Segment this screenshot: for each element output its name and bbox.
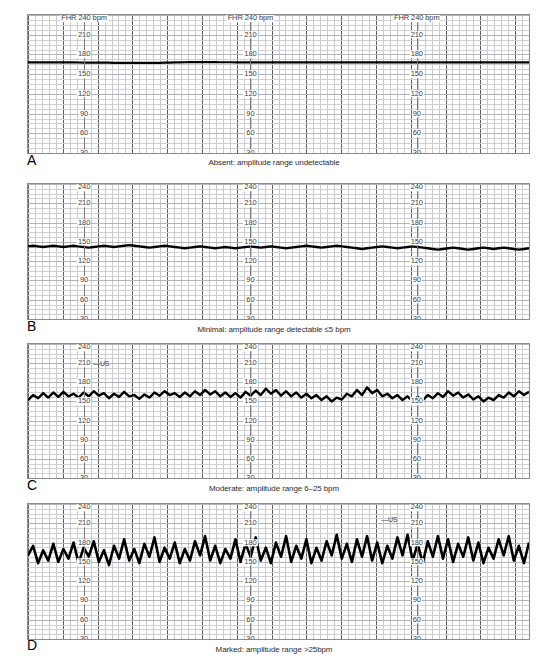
bpm-tick-label: 180 — [410, 51, 424, 59]
grid-vline — [529, 184, 530, 319]
panel-caption: Moderate: amplitude range 6–25 bpm — [0, 484, 548, 493]
grid-hline — [28, 639, 529, 640]
panel-caption: Absent: amplitude range undetectable — [0, 158, 548, 167]
panel-d: 2402101801501209060302402101801501209060… — [0, 503, 548, 659]
panel-b: 2402101801501209060302402101801501209060… — [0, 183, 548, 339]
bpm-tick-label: FHR 240 bpm — [393, 15, 441, 23]
bpm-tick-label: 30 — [412, 149, 422, 154]
fhr-trace — [28, 184, 529, 319]
bpm-tick-label: 150 — [410, 558, 424, 566]
bpm-tick-label: 120 — [77, 90, 91, 98]
bpm-tick-label: 210 — [77, 520, 91, 528]
bpm-tick-label: 30 — [245, 474, 255, 479]
ctg-plot-box: 2402101801501209060302402101801501209060… — [27, 503, 530, 640]
panel-caption: Marked: amplitude range >25bpm — [0, 645, 548, 654]
bpm-tick-label: 120 — [243, 90, 257, 98]
bpm-tick-label: 180 — [243, 51, 257, 59]
bpm-tick-label: 210 — [77, 31, 91, 39]
bpm-tick-label: 30 — [79, 474, 89, 479]
bpm-tick-label: 120 — [77, 257, 91, 265]
bpm-tick-label: 210 — [410, 31, 424, 39]
bpm-tick-label: 180 — [410, 219, 424, 227]
bpm-tick-label: 90 — [412, 436, 422, 444]
bpm-tick-label: 150 — [243, 558, 257, 566]
bpm-tick-label: 240 — [77, 504, 91, 512]
bpm-tick-label: 240 — [243, 504, 257, 512]
bpm-tick-label: 240 — [410, 504, 424, 512]
bpm-tick-label: 30 — [412, 474, 422, 479]
bpm-tick-label: 240 — [243, 344, 257, 352]
grid-hline — [28, 153, 529, 154]
bpm-tick-label: 240 — [410, 344, 424, 352]
ultrasound-mode-marker: —US — [381, 516, 397, 523]
bpm-tick-label: 150 — [243, 70, 257, 78]
bpm-tick-label: 180 — [243, 539, 257, 547]
bpm-tick-label: 180 — [77, 219, 91, 227]
bpm-tick-label: 90 — [79, 110, 89, 118]
fhr-trace — [28, 504, 529, 639]
bpm-tick-label: 60 — [79, 296, 89, 304]
bpm-tick-label: 90 — [79, 277, 89, 285]
bpm-tick-label: 120 — [243, 257, 257, 265]
bpm-tick-label: 180 — [77, 51, 91, 59]
bpm-tick-label: 60 — [412, 296, 422, 304]
bpm-tick-label: 90 — [245, 597, 255, 605]
grid-hline — [28, 478, 529, 479]
bpm-tick-label: 30 — [412, 635, 422, 640]
bpm-tick-label: 90 — [412, 597, 422, 605]
bpm-tick-label: 120 — [410, 257, 424, 265]
bpm-tick-label: 60 — [245, 616, 255, 624]
bpm-tick-label: 30 — [412, 315, 422, 320]
bpm-tick-label: 240 — [77, 344, 91, 352]
bpm-tick-label: 150 — [77, 70, 91, 78]
bpm-tick-label: 180 — [77, 379, 91, 387]
bpm-tick-label: 60 — [412, 130, 422, 138]
bpm-tick-label: 150 — [410, 238, 424, 246]
bpm-tick-label: 210 — [243, 31, 257, 39]
panel-a: FHR 240 bpm210180150120906030FHR 240 bpm… — [0, 14, 548, 172]
bpm-tick-label: 210 — [243, 200, 257, 208]
bpm-tick-label: 60 — [79, 455, 89, 463]
bpm-tick-label: 150 — [243, 398, 257, 406]
bpm-tick-label: 120 — [243, 417, 257, 425]
bpm-tick-label: 120 — [410, 90, 424, 98]
bpm-tick-label: 90 — [245, 110, 255, 118]
bpm-tick-label: 60 — [245, 130, 255, 138]
bpm-tick-label: 60 — [412, 455, 422, 463]
bpm-tick-label: 210 — [243, 359, 257, 367]
bpm-tick-label: 180 — [410, 379, 424, 387]
bpm-tick-label: 240 — [77, 184, 91, 192]
bpm-tick-label: 150 — [77, 238, 91, 246]
bpm-tick-label: 240 — [243, 184, 257, 192]
panel-c: 2402101801501209060302402101801501209060… — [0, 343, 548, 498]
ctg-plot-box: 2402101801501209060302402101801501209060… — [27, 183, 530, 320]
bpm-tick-label: FHR 240 bpm — [227, 15, 275, 23]
grid-vline — [529, 15, 530, 153]
bpm-tick-label: 120 — [410, 577, 424, 585]
bpm-tick-label: 150 — [243, 238, 257, 246]
ctg-plot-box: FHR 240 bpm210180150120906030FHR 240 bpm… — [27, 14, 530, 154]
bpm-tick-label: 240 — [410, 184, 424, 192]
bpm-tick-label: 60 — [412, 616, 422, 624]
bpm-tick-label: 60 — [79, 130, 89, 138]
bpm-tick-label: 180 — [243, 219, 257, 227]
bpm-tick-label: 150 — [410, 70, 424, 78]
grid-hline — [28, 319, 529, 320]
grid-vline — [529, 344, 530, 478]
fhr-trace — [28, 15, 529, 153]
bpm-tick-label: 210 — [410, 520, 424, 528]
bpm-tick-label: 30 — [245, 149, 255, 154]
ultrasound-mode-marker: —US — [93, 360, 109, 367]
bpm-tick-label: 150 — [410, 398, 424, 406]
bpm-tick-label: 180 — [410, 539, 424, 547]
bpm-tick-label: 210 — [77, 359, 91, 367]
bpm-tick-label: 150 — [77, 398, 91, 406]
bpm-tick-label: 60 — [245, 296, 255, 304]
bpm-tick-label: 150 — [77, 558, 91, 566]
bpm-tick-label: 90 — [245, 277, 255, 285]
panel-caption: Minimal: amplitude range detectable ≤5 b… — [0, 325, 548, 334]
bpm-tick-label: 90 — [412, 277, 422, 285]
bpm-tick-label: 30 — [245, 635, 255, 640]
bpm-tick-label: 90 — [245, 436, 255, 444]
bpm-tick-label: 30 — [79, 149, 89, 154]
